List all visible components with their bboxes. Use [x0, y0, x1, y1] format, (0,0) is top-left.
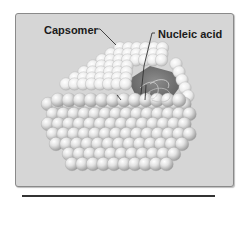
nucleic-acid-label: Nucleic acid — [158, 28, 222, 40]
capsomer-spheres — [41, 42, 196, 171]
separator-rule — [22, 195, 215, 197]
capsomer-leader-line — [97, 29, 116, 45]
capsomer-label: Capsomer — [44, 24, 98, 36]
